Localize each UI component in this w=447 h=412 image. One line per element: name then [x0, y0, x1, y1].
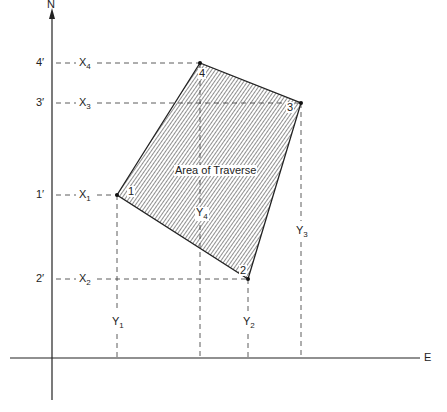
diagram-svg [0, 0, 447, 412]
tick-label-2: 2′ [36, 273, 44, 284]
y2-label: Y2 [243, 316, 255, 330]
tick-label-1: 1′ [36, 189, 44, 200]
y4-label: Y4 [195, 207, 209, 221]
x3-label: X3 [79, 97, 91, 111]
y3-label: Y3 [296, 225, 308, 239]
area-label: Area of Traverse [174, 165, 257, 176]
east-label: E [424, 352, 431, 363]
vertex-label-2: 2 [239, 265, 247, 276]
traverse-diagram: N E 4′ 3′ 1′ 2′ X4 X3 X1 X2 Y1 Y2 Y3 Y4 … [0, 0, 447, 412]
x2-label: X2 [79, 273, 91, 287]
tick-label-3: 3′ [36, 97, 44, 108]
tick-label-4: 4′ [36, 57, 44, 68]
vertex-label-4: 4 [198, 68, 206, 79]
x1-label: X1 [79, 189, 91, 203]
vertex-label-1: 1 [127, 186, 135, 197]
y1-label: Y1 [112, 316, 124, 330]
vertex-label-3: 3 [286, 102, 294, 113]
north-label: N [47, 0, 55, 10]
x4-label: X4 [79, 57, 91, 71]
